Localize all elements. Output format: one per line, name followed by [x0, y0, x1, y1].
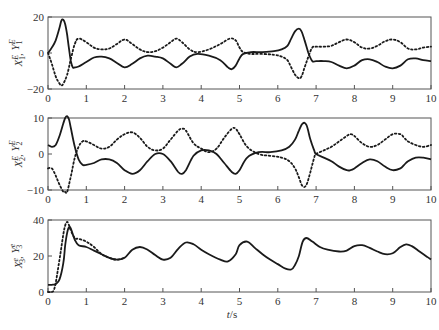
x-axis-ticks: 012345678910	[45, 288, 437, 307]
y-axis-label: Xe3, Ye3	[8, 243, 27, 269]
x-tick-label: 5	[237, 92, 243, 104]
x-tick-label: 1	[84, 295, 90, 307]
series-x1-solid	[48, 19, 431, 69]
x-tick-label: 9	[390, 92, 396, 104]
x-tick-label: 8	[352, 193, 358, 205]
panel-x2-y2: 100−10 012345678910 XE2, YE2	[8, 112, 437, 205]
y-tick-label: 0	[39, 148, 45, 160]
x-tick-label: 7	[313, 92, 319, 104]
x-tick-label: 6	[275, 193, 281, 205]
x-tick-label: 10	[426, 193, 438, 205]
plot-frame	[48, 118, 431, 190]
x-tick-label: 8	[352, 295, 358, 307]
y-tick-label: 20	[33, 250, 45, 262]
y-tick-label: 0	[39, 47, 45, 59]
x-tick-label: 6	[275, 295, 281, 307]
x-tick-label: 5	[237, 295, 243, 307]
y-tick-label: 40	[33, 214, 45, 226]
y-tick-label: 0	[39, 286, 45, 298]
x-tick-label: 3	[160, 92, 166, 104]
x-axis-label: t/s	[227, 308, 237, 320]
x-tick-label: 4	[198, 92, 204, 104]
x-tick-label: 10	[426, 92, 438, 104]
y-tick-label: −10	[27, 184, 45, 196]
x-tick-label: 5	[237, 193, 243, 205]
x-axis-ticks: 012345678910	[45, 186, 437, 205]
series-y1-dotted	[48, 38, 431, 85]
x-tick-label: 7	[313, 295, 319, 307]
x-tick-label: 2	[122, 295, 128, 307]
series-x2-solid	[48, 116, 431, 174]
x-tick-label: 0	[45, 92, 51, 104]
x-tick-label: 3	[160, 295, 166, 307]
series-x3-solid	[48, 227, 431, 285]
x-tick-label: 6	[275, 92, 281, 104]
x-tick-label: 2	[122, 193, 128, 205]
x-tick-label: 0	[45, 295, 51, 307]
plot-frame	[48, 17, 431, 89]
x-tick-label: 2	[122, 92, 128, 104]
x-tick-label: 9	[390, 193, 396, 205]
y-axis-label: XE1, YE1	[8, 39, 27, 67]
y-tick-label: 10	[33, 112, 45, 124]
x-tick-label: 0	[45, 193, 51, 205]
x-tick-label: 8	[352, 92, 358, 104]
panel-x3-y3: 40200 012345678910 Xe3, Ye3	[8, 214, 437, 307]
series-y3-dotted	[48, 222, 125, 292]
panel-x1-y1: 200−20 012345678910 XE1, YE1	[8, 11, 437, 104]
x-tick-label: 9	[390, 295, 396, 307]
x-tick-label: 4	[198, 295, 204, 307]
x-tick-label: 1	[84, 193, 90, 205]
x-tick-label: 3	[160, 193, 166, 205]
x-axis-ticks: 012345678910	[45, 85, 437, 104]
x-tick-label: 4	[198, 193, 204, 205]
x-tick-label: 7	[313, 193, 319, 205]
x-tick-label: 1	[84, 92, 90, 104]
chart-figure: 200−20 012345678910 XE1, YE1 100−10 0123…	[0, 0, 439, 330]
y-axis-label: XE2, YE2	[8, 140, 27, 168]
y-tick-label: −20	[27, 83, 45, 95]
y-tick-label: 20	[33, 11, 45, 23]
x-tick-label: 10	[426, 295, 438, 307]
